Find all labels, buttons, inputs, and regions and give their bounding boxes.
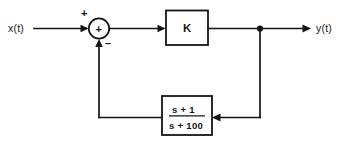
block-diagram-canvas: x(t) y(t) + + – K s + 1 s + 100	[0, 0, 342, 145]
summing-junction-negative-sign: –	[105, 38, 111, 49]
summing-junction-positive-sign: +	[81, 8, 87, 19]
feedback-denominator-label: s + 100	[169, 121, 203, 131]
feedback-numerator-label: s + 1	[172, 105, 195, 115]
output-arrowhead-icon	[303, 25, 312, 33]
input-arrowhead-icon	[81, 25, 89, 32]
gain-input-arrowhead-icon	[158, 25, 166, 32]
summing-junction-operator: +	[96, 24, 102, 35]
input-signal-label: x(t)	[8, 23, 24, 34]
feedback-block-input-arrowhead-icon	[212, 114, 221, 122]
output-signal-label: y(t)	[316, 23, 332, 34]
gain-block-label: K	[183, 23, 192, 35]
feedback-arrowhead-icon	[95, 39, 103, 47]
